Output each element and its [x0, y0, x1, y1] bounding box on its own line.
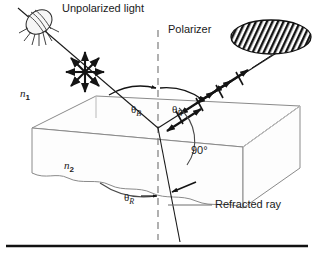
refracting-medium-slab — [32, 96, 300, 208]
label-theta-b-reflected: θB — [172, 104, 182, 118]
diagram-canvas — [0, 0, 314, 257]
label-unpolarized-light: Unpolarized light — [62, 3, 144, 14]
label-theta-b-incident: θB — [131, 104, 141, 118]
light-bulb-icon — [19, 5, 59, 46]
label-refracted-ray: Refracted ray — [215, 199, 281, 210]
theta-b-subscript-incident: B — [136, 109, 141, 118]
angle-arc-theta-b-incident — [109, 86, 156, 95]
theta-r-subscript: R — [129, 197, 134, 206]
label-polarizer: Polarizer — [168, 24, 211, 35]
label-ninety-degrees: 90° — [191, 145, 208, 156]
label-refractive-index-n1: n1 — [20, 88, 30, 102]
n2-subscript: 2 — [70, 165, 74, 174]
label-theta-r: θR — [124, 192, 134, 206]
theta-b-subscript-reflected: B — [177, 109, 182, 118]
starburst-arrows-icon — [66, 52, 104, 92]
label-refractive-index-n2: n2 — [64, 160, 74, 174]
hatched-ellipse-icon — [231, 20, 311, 54]
brewster-angle-diagram: Unpolarized light Polarizer n1 n2 θB θB … — [0, 0, 314, 257]
ray-to-polarizer — [252, 55, 272, 68]
n1-subscript: 1 — [26, 93, 30, 102]
